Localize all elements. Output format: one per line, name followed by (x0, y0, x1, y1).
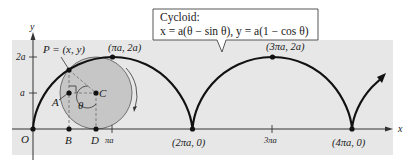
label-P: P = (x, y) (42, 43, 85, 56)
tick-label-a: a (20, 88, 25, 98)
origin-label: O (21, 133, 29, 145)
label-peak1: (πa, 2a) (108, 42, 142, 54)
point-P (66, 67, 71, 72)
tick-label-3pi-a: 3πa (263, 135, 277, 145)
label-A: A (51, 96, 59, 108)
point-O (30, 126, 35, 131)
label-D: D (90, 134, 99, 146)
point-peak2 (270, 54, 275, 59)
label-cusp2: (4πa, 0) (332, 137, 366, 149)
point-B (66, 126, 71, 131)
point-peak1 (110, 54, 115, 59)
callout-title: Cycloid: (160, 11, 200, 24)
label-B: B (65, 134, 72, 146)
point-cusp2 (349, 126, 354, 131)
tick-label-2a: 2a (16, 52, 26, 62)
point-D (93, 126, 98, 131)
label-peak2: (3πa, 2a) (266, 41, 305, 53)
point-cusp1 (190, 126, 195, 131)
label-cusp1: (2πa, 0) (172, 137, 206, 149)
tick-label-pi-a: πa (105, 135, 114, 145)
label-C: C (99, 87, 107, 99)
x-axis-label: x (397, 123, 403, 134)
callout-equation: x = a(θ − sin θ), y = a(1 − cos θ) (160, 25, 309, 38)
label-theta: θ (78, 99, 84, 111)
point-A (66, 90, 71, 95)
point-C (93, 90, 98, 95)
y-axis-arrow-icon (31, 32, 36, 40)
y-axis-label: y (29, 21, 35, 32)
cycloid-diagram: Cycloid: x = a(θ − sin θ), y = a(1 − cos… (0, 0, 420, 165)
